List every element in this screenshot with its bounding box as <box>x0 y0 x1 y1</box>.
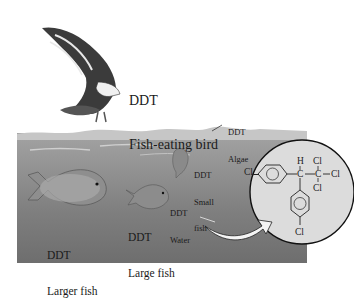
atom-cl-right: Cl <box>331 169 340 179</box>
label-larger-fish-name: Larger fish <box>47 285 98 297</box>
atom-c2: C <box>315 169 321 179</box>
ddt-molecule-diagram: C H C Cl Cl Cl Cl <box>250 140 354 250</box>
label-algae: DDT Algae <box>228 110 248 172</box>
atom-cl-bottom: Cl <box>313 183 322 193</box>
label-bird-name: Fish-eating bird <box>129 138 218 153</box>
cl-bond <box>253 174 259 175</box>
label-small-fish-name-2: fish <box>194 224 214 233</box>
label-larger-fish: DDT Larger fish <box>47 225 98 302</box>
atom-c1: C <box>297 169 303 179</box>
atom-cl-para: Cl <box>295 227 304 237</box>
label-algae-ddt: DDT <box>228 128 248 137</box>
atom-h: H <box>297 156 304 166</box>
label-large-fish: DDT Large fish <box>128 207 175 291</box>
larger-fish-icon <box>28 170 106 205</box>
atom-cl-top: Cl <box>313 156 322 166</box>
label-large-fish-name: Large fish <box>128 267 175 279</box>
label-bird-ddt: DDT <box>129 94 218 109</box>
label-small-fish: DDT Small fish <box>194 153 214 242</box>
label-small-fish-name-1: Small <box>194 198 214 207</box>
large-fish-icon <box>126 185 169 209</box>
label-small-fish-ddt: DDT <box>194 171 214 180</box>
osprey-bird-icon <box>42 27 120 122</box>
label-large-fish-ddt: DDT <box>128 231 175 243</box>
label-algae-name: Algae <box>228 155 248 164</box>
label-larger-fish-ddt: DDT <box>47 249 98 261</box>
